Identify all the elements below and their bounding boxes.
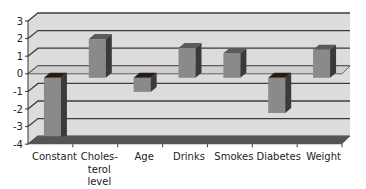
y-tick-label: 0 [17, 68, 23, 79]
x-category-label: Diabetes [257, 151, 301, 162]
y-tick-label: -1 [13, 86, 23, 97]
x-category-label: Smokes [214, 151, 253, 162]
bar [268, 73, 291, 113]
x-category-label: Age [134, 151, 153, 162]
y-tick-label: -2 [13, 104, 23, 115]
x-category-label: Weight [306, 151, 341, 162]
y-axis: 3210-1-2-3-4 [13, 16, 28, 150]
chart-back-wall [28, 13, 350, 144]
x-category-label: Choles- [81, 151, 119, 162]
x-category-label: level [87, 176, 111, 187]
bar [313, 45, 336, 78]
y-tick-label: -3 [13, 121, 23, 132]
bar [223, 48, 246, 78]
chart-floor [28, 136, 350, 147]
y-tick-label: 3 [17, 16, 23, 27]
bar [134, 73, 157, 92]
y-tick-label: 2 [17, 33, 23, 44]
bar-chart: 3210-1-2-3-4 ConstantCholes-terollevelAg… [0, 0, 366, 189]
x-axis-labels: ConstantCholes-terollevelAgeDrinksSmokes… [32, 151, 341, 187]
bar [44, 73, 67, 141]
x-category-label: Drinks [173, 151, 205, 162]
bar [179, 43, 202, 78]
y-tick-label: 1 [17, 51, 23, 62]
x-category-label: Constant [32, 151, 77, 162]
x-category-label: terol [88, 164, 111, 175]
bar [89, 34, 112, 78]
y-tick-label: -4 [13, 139, 23, 150]
